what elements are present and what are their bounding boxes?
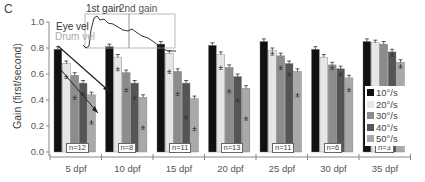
legend-item: 50°/s bbox=[367, 133, 413, 145]
n-label: n=13 bbox=[221, 143, 244, 153]
legend-label: 10°/s bbox=[376, 87, 398, 99]
legend-swatch bbox=[367, 135, 374, 142]
legend-swatch bbox=[367, 101, 374, 108]
legend-swatch bbox=[367, 124, 374, 131]
inset-drum-vel-label: Drum vel bbox=[55, 31, 95, 42]
inset-first-gain-label: 1st gain bbox=[86, 3, 121, 14]
legend-item: 20°/s bbox=[367, 99, 413, 111]
legend-label: 20°/s bbox=[376, 99, 398, 111]
inset-second-gain-label: 2nd gain bbox=[119, 3, 157, 14]
n-label: n=11 bbox=[169, 143, 191, 153]
n-label: n=12 bbox=[66, 143, 89, 153]
legend-item: 40°/s bbox=[367, 122, 413, 134]
legend-swatch bbox=[367, 89, 374, 96]
n-label: n=8 bbox=[118, 143, 137, 153]
legend-label: 50°/s bbox=[376, 133, 398, 145]
legend-label: 30°/s bbox=[376, 110, 398, 122]
n-label: n=6 bbox=[324, 143, 343, 153]
legend-swatch bbox=[367, 112, 374, 119]
legend-item: 30°/s bbox=[367, 110, 413, 122]
legend: 10°/s20°/s30°/s40°/s50°/s bbox=[365, 86, 415, 146]
n-label: n=11 bbox=[272, 143, 294, 153]
legend-item: 10°/s bbox=[367, 87, 413, 99]
legend-label: 40°/s bbox=[376, 122, 398, 134]
